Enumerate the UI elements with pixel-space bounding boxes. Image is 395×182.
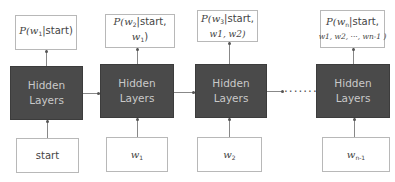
output-box-1: P(w1|start) (15, 15, 77, 50)
output-box-4: P(wn|start, w1, w2, ···, wn-1 ) (320, 10, 385, 48)
hidden-layers-box-2: Hidden Layers (100, 64, 174, 118)
arrowhead (228, 42, 231, 45)
input-box-3: w2 (197, 137, 262, 172)
hidden-label: Layers (336, 91, 371, 106)
output-label-4-line1: P(wn|start, (326, 16, 379, 31)
output-box-2: P(w2|start, w1) (105, 14, 175, 48)
hidden-layers-box-1: Hidden Layers (10, 66, 83, 120)
hidden-label: Hidden (118, 76, 155, 91)
input-label-2: w1 (131, 149, 143, 161)
output-label-4-line2: w1, w2, ···, wn-1 ) (319, 31, 387, 43)
hidden-label: Hidden (334, 76, 371, 91)
output-label-3-line1: P(w3|start, (201, 13, 254, 28)
hidden-layers-box-3: Hidden Layers (195, 64, 267, 118)
input-label-1: start (36, 150, 59, 161)
arrowhead (136, 118, 139, 121)
arrowhead (46, 120, 49, 123)
hidden-layers-box-4: Hidden Layers (316, 64, 390, 118)
hidden-label: Layers (29, 93, 64, 108)
input-box-2: w1 (106, 137, 168, 172)
hidden-label: Layers (214, 91, 249, 106)
output-label-2-line1: P(w2|start, (114, 16, 167, 31)
output-label-2-line2: w1) (132, 31, 148, 46)
output-label-3-line2: w1, w2) (209, 28, 245, 40)
ellipsis: ······· (284, 89, 318, 95)
hidden-label: Hidden (212, 76, 249, 91)
hidden-label: Hidden (28, 78, 65, 93)
input-label-4: wn-1 (347, 149, 365, 161)
output-box-3: P(w3|start, w1, w2) (197, 10, 258, 42)
hidden-label: Layers (120, 91, 155, 106)
input-box-4: wn-1 (322, 137, 390, 172)
output-label-1: P(w1|start) (19, 25, 73, 40)
arrowhead (353, 118, 356, 121)
input-box-1: start (16, 138, 79, 173)
connector-hidden3-to-output3 (229, 42, 230, 64)
arrowhead (136, 48, 139, 51)
arrowhead (352, 48, 355, 51)
input-label-3: w2 (223, 149, 235, 161)
arrowhead (45, 50, 48, 53)
arrowhead (228, 118, 231, 121)
